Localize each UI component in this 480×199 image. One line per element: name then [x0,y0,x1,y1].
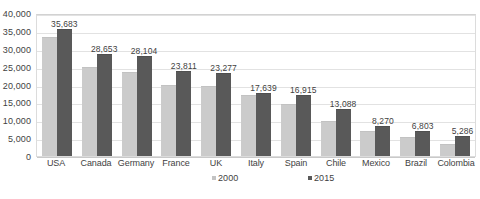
bar-value-label-usa-2015: 35,683 [51,19,78,29]
bar-value-label-italy-2015: 17,639 [250,83,277,93]
bar-group-colombia: 5,286 [435,15,475,156]
bar-value-label-colombia-2015: 5,286 [452,126,474,136]
y-tick-label-35000: 35,000 [3,27,31,37]
bar-spain-2000[interactable] [281,104,296,156]
bar-france-2000[interactable] [161,85,176,156]
bar-germany-2000[interactable] [122,72,137,156]
bar-italy-2000[interactable] [241,95,256,156]
bar-chile-2015[interactable]: 13,088 [336,109,351,156]
x-tick-label-colombia: Colombia [436,158,476,168]
bar-mexico-2015[interactable]: 8,270 [375,126,390,156]
y-tick-label-10000: 10,000 [3,116,31,126]
bar-group-chile: 13,088 [316,15,356,156]
x-tick-label-chile: Chile [316,158,356,168]
bar-group-uk: 23,277 [196,15,236,156]
bar-spain-2015[interactable]: 16,915 [296,95,311,156]
legend-swatch-icon-2000 [212,176,216,180]
bar-value-label-france-2015: 23,811 [171,61,197,71]
bar-italy-2015[interactable]: 17,639 [256,93,271,156]
x-tick-label-mexico: Mexico [356,158,396,168]
x-tick-label-germany: Germany [116,158,156,168]
legend-label-2000: 2000 [218,173,238,183]
y-tick-label-15000: 15,000 [3,98,31,108]
bar-value-label-canada-2015: 28,653 [91,44,118,54]
legend-swatch-icon-2015 [308,176,312,180]
bar-value-label-germany-2015: 28,104 [131,46,158,56]
bar-value-label-spain-2015: 16,915 [290,85,317,95]
bar-value-label-uk-2015: 23,277 [210,63,237,73]
y-tick-label-0: 0 [26,152,31,162]
bar-group-germany: 28,104 [117,15,157,156]
legend-entry-2015[interactable]: 2015 [308,173,334,183]
bar-value-label-brazil-2015: 6,803 [412,121,434,131]
bar-group-italy: 17,639 [236,15,276,156]
bar-canada-2015[interactable]: 28,653 [97,54,112,156]
legend-entry-2000[interactable]: 2000 [212,173,238,183]
legend-label-2015: 2015 [314,173,334,183]
bar-usa-2000[interactable] [42,37,57,156]
y-tick-label-5000: 5,000 [8,134,31,144]
bar-uk-2000[interactable] [201,86,216,156]
bar-colombia-2000[interactable] [440,144,455,156]
x-tick-label-france: France [156,158,196,168]
x-tick-label-uk: UK [196,158,236,168]
bar-group-mexico: 8,270 [356,15,396,156]
bar-colombia-2015[interactable]: 5,286 [455,136,470,156]
x-tick-label-spain: Spain [276,158,316,168]
bar-chile-2000[interactable] [321,121,336,156]
y-axis: 40,000 35,000 30,000 25,000 20,000 15,00… [0,0,34,199]
bar-france-2015[interactable]: 23,811 [176,71,191,156]
bar-usa-2015[interactable]: 35,683 [57,29,72,156]
bar-value-label-chile-2015: 13,088 [330,99,357,109]
y-tick-label-40000: 40,000 [3,9,31,19]
y-tick-label-30000: 30,000 [3,45,31,55]
x-tick-label-italy: Italy [236,158,276,168]
x-tick-label-canada: Canada [76,158,116,168]
plot-area: 35,68328,65328,10423,81123,27717,63916,9… [36,14,476,157]
x-tick-label-usa: USA [36,158,76,168]
bar-brazil-2000[interactable] [400,137,415,156]
bar-group-usa: 35,683 [37,15,77,156]
x-tick-label-brazil: Brazil [396,158,436,168]
bar-germany-2015[interactable]: 28,104 [137,56,152,156]
bar-group-spain: 16,915 [276,15,316,156]
bar-mexico-2000[interactable] [360,131,375,156]
bar-group-brazil: 6,803 [395,15,435,156]
y-tick-label-20000: 20,000 [3,81,31,91]
bars-layer: 35,68328,65328,10423,81123,27717,63916,9… [37,15,475,156]
bar-uk-2015[interactable]: 23,277 [216,73,231,156]
bar-canada-2000[interactable] [82,67,97,156]
chart-legend: 2000 2015 [36,173,476,187]
bar-brazil-2015[interactable]: 6,803 [415,131,430,156]
bar-value-label-mexico-2015: 8,270 [372,116,394,126]
grouped-bar-chart: 40,000 35,000 30,000 25,000 20,000 15,00… [0,0,480,199]
bar-group-canada: 28,653 [77,15,117,156]
y-tick-label-25000: 25,000 [3,63,31,73]
x-axis: USACanadaGermanyFranceUKItalySpainChileM… [36,158,476,168]
bar-group-france: 23,811 [156,15,196,156]
